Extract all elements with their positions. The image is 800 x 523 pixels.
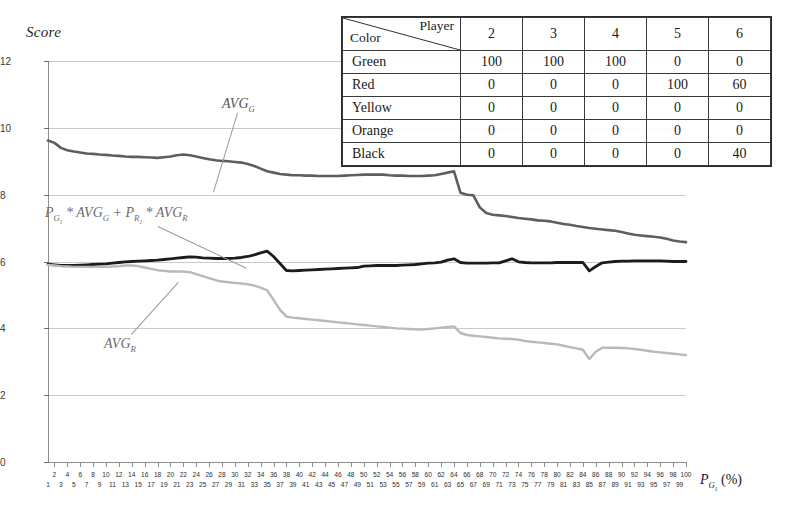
x-tick-label: 56 — [399, 471, 406, 478]
table-cell: 0 — [461, 143, 523, 166]
x-tick-mark — [518, 462, 519, 467]
x-tick-label: 38 — [283, 471, 290, 478]
x-tick-mark — [583, 462, 584, 467]
x-tick-mark — [132, 462, 133, 467]
table-row-header: Orange — [343, 120, 461, 143]
table-cell: 0 — [461, 74, 523, 97]
x-tick-label: 96 — [657, 471, 664, 478]
x-tick-label: 16 — [141, 471, 148, 478]
chart-page: Score 024681012 246810121416182022242628… — [0, 0, 800, 523]
table-cell: 0 — [709, 120, 771, 143]
x-tick-label: 40 — [296, 471, 303, 478]
x-tick-label: 91 — [624, 481, 631, 488]
x-tick-label: 52 — [373, 471, 380, 478]
x-tick-label: 81 — [560, 481, 567, 488]
table-column-header: 6 — [709, 18, 771, 51]
x-tick-label: 48 — [347, 471, 354, 478]
y-axis-title: Score — [26, 24, 61, 41]
y-tick-label: 2 — [0, 390, 44, 401]
x-tick-label: 6 — [78, 471, 82, 478]
x-tick-label: 100 — [680, 471, 691, 478]
table-cell: 100 — [585, 51, 647, 74]
x-tick-label: 66 — [463, 471, 470, 478]
table-cell: 0 — [647, 97, 709, 120]
x-tick-mark — [609, 462, 610, 467]
x-tick-label: 92 — [631, 471, 638, 478]
x-tick-label: 46 — [334, 471, 341, 478]
x-tick-mark — [183, 462, 184, 467]
x-tick-label: 73 — [508, 481, 515, 488]
x-tick-mark — [286, 462, 287, 467]
x-tick-label: 98 — [669, 471, 676, 478]
x-tick-label: 11 — [109, 481, 116, 488]
x-tick-label: 58 — [412, 471, 419, 478]
x-tick-label: 9 — [98, 481, 102, 488]
x-tick-label: 15 — [135, 481, 142, 488]
y-tick-label: 8 — [0, 189, 44, 200]
table-column-header: 2 — [461, 18, 523, 51]
table-row: Orange00000 — [343, 120, 771, 143]
x-tick-label: 22 — [180, 471, 187, 478]
x-tick-mark — [402, 462, 403, 467]
x-tick-label: 87 — [599, 481, 606, 488]
x-tick-mark — [467, 462, 468, 467]
x-tick-mark — [493, 462, 494, 467]
table-corner-cell: ColorPlayer — [343, 18, 461, 51]
x-tick-label: 5 — [72, 481, 76, 488]
x-tick-label: 94 — [644, 471, 651, 478]
table-cell: 0 — [647, 51, 709, 74]
x-tick-label: 44 — [321, 471, 328, 478]
table-cell: 0 — [647, 143, 709, 166]
x-tick-mark — [312, 462, 313, 467]
x-tick-label: 18 — [154, 471, 161, 478]
x-tick-mark — [80, 462, 81, 467]
x-tick-label: 88 — [605, 471, 612, 478]
x-tick-mark — [415, 462, 416, 467]
x-tick-label: 1 — [46, 481, 50, 488]
x-tick-label: 72 — [502, 471, 509, 478]
x-tick-label: 67 — [470, 481, 477, 488]
x-tick-mark — [106, 462, 107, 467]
table-cell: 0 — [709, 51, 771, 74]
table-cell: 0 — [523, 97, 585, 120]
x-tick-label: 45 — [328, 481, 335, 488]
x-tick-label: 25 — [199, 481, 206, 488]
x-tick-label: 31 — [238, 481, 245, 488]
y-tick-mark — [44, 462, 49, 463]
x-tick-mark — [145, 462, 146, 467]
x-tick-label: 61 — [431, 481, 438, 488]
x-tick-mark — [93, 462, 94, 467]
x-tick-mark — [596, 462, 597, 467]
table-row: Red00010060 — [343, 74, 771, 97]
table-cell: 0 — [585, 97, 647, 120]
x-tick-mark — [67, 462, 68, 467]
x-tick-mark — [480, 462, 481, 467]
x-tick-label: 41 — [302, 481, 309, 488]
x-tick-mark — [119, 462, 120, 467]
x-tick-label: 90 — [618, 471, 625, 478]
x-tick-label: 97 — [663, 481, 670, 488]
x-tick-label: 85 — [586, 481, 593, 488]
x-tick-mark — [235, 462, 236, 467]
x-tick-label: 55 — [392, 481, 399, 488]
table-cell: 0 — [647, 120, 709, 143]
x-tick-label: 89 — [611, 481, 618, 488]
x-tick-label: 7 — [85, 481, 89, 488]
x-tick-label: 49 — [354, 481, 361, 488]
x-tick-label: 76 — [528, 471, 535, 478]
x-tick-label: 95 — [650, 481, 657, 488]
x-tick-label: 99 — [676, 481, 683, 488]
x-tick-label: 33 — [251, 481, 258, 488]
x-tick-label: 37 — [276, 481, 283, 488]
x-tick-label: 3 — [59, 481, 63, 488]
x-tick-label: 93 — [637, 481, 644, 488]
x-tick-label: 34 — [257, 471, 264, 478]
x-tick-label: 23 — [186, 481, 193, 488]
x-tick-mark — [54, 462, 55, 467]
x-tick-mark — [325, 462, 326, 467]
x-tick-mark — [557, 462, 558, 467]
x-tick-mark — [158, 462, 159, 467]
annotation-avg-g: AVGG — [222, 96, 255, 114]
table-row-header: Black — [343, 143, 461, 166]
x-tick-label: 82 — [566, 471, 573, 478]
